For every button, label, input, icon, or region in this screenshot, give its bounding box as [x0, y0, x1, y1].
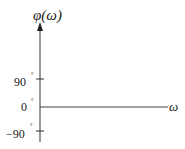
- x-axis-label: ω: [169, 99, 178, 114]
- tick-unit-90: °: [31, 72, 34, 78]
- phase-plot: φ(ω) ω 90 ° 0 ° −90 °: [0, 0, 185, 149]
- y-axis-arrow-icon: [37, 22, 43, 31]
- tick-label-0: 0: [21, 100, 27, 114]
- tick-unit-0: °: [31, 98, 34, 104]
- y-axis-label: φ(ω): [33, 7, 62, 24]
- tick-unit-neg90: °: [30, 123, 33, 129]
- tick-label-neg90: −90: [6, 127, 25, 141]
- tick-label-90: 90: [14, 75, 26, 89]
